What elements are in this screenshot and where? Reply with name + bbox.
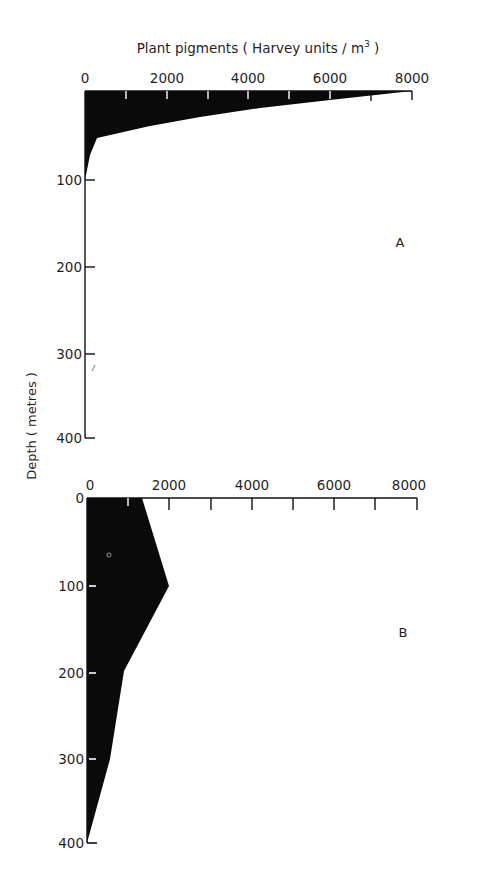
svg-text:8000: 8000	[392, 477, 426, 493]
figure-canvas: Plant pigments ( Harvey units / m3 ) Dep…	[0, 0, 477, 873]
svg-text:6000: 6000	[313, 70, 347, 86]
panel-b-profile-area	[87, 498, 169, 843]
svg-text:300: 300	[56, 346, 82, 362]
panel-b-x-tick-labels: 0 2000 4000 6000 8000	[86, 477, 426, 493]
svg-text:400: 400	[58, 835, 84, 851]
panel-a-x-tick-labels: 0 2000 4000 6000 8000	[81, 70, 429, 86]
y-axis-title: Depth ( metres )	[24, 372, 39, 480]
svg-text:2000: 2000	[152, 477, 186, 493]
svg-text:4000: 4000	[231, 70, 265, 86]
panel-b: 0 2000 4000 6000 8000 0 100 200 300 400 …	[58, 477, 426, 851]
svg-text:100: 100	[56, 172, 82, 188]
svg-text:2000: 2000	[150, 70, 184, 86]
panel-a-label: A	[396, 235, 405, 250]
svg-text:100: 100	[58, 578, 84, 594]
panel-a: 0 2000 4000 6000 8000 100 200 300 400 A	[56, 70, 429, 446]
svg-text:400: 400	[56, 430, 82, 446]
panel-b-x-ticks	[128, 498, 417, 510]
panel-a-y-tick-labels: 100 200 300 400	[56, 172, 82, 446]
svg-text:6000: 6000	[317, 477, 351, 493]
panel-b-label: B	[399, 625, 408, 640]
svg-text:0: 0	[86, 477, 95, 493]
svg-text:200: 200	[58, 665, 84, 681]
scan-artifact	[92, 365, 95, 371]
panel-a-profile-area	[85, 91, 412, 180]
svg-text:8000: 8000	[395, 70, 429, 86]
svg-text:0: 0	[75, 490, 84, 506]
panel-b-y-tick-labels: 0 100 200 300 400	[58, 490, 84, 851]
svg-text:300: 300	[58, 751, 84, 767]
svg-text:200: 200	[56, 259, 82, 275]
panel-a-y-ticks	[85, 180, 95, 438]
svg-text:0: 0	[81, 70, 90, 86]
svg-text:4000: 4000	[235, 477, 269, 493]
x-axis-title: Plant pigments ( Harvey units / m3 )	[137, 39, 380, 56]
